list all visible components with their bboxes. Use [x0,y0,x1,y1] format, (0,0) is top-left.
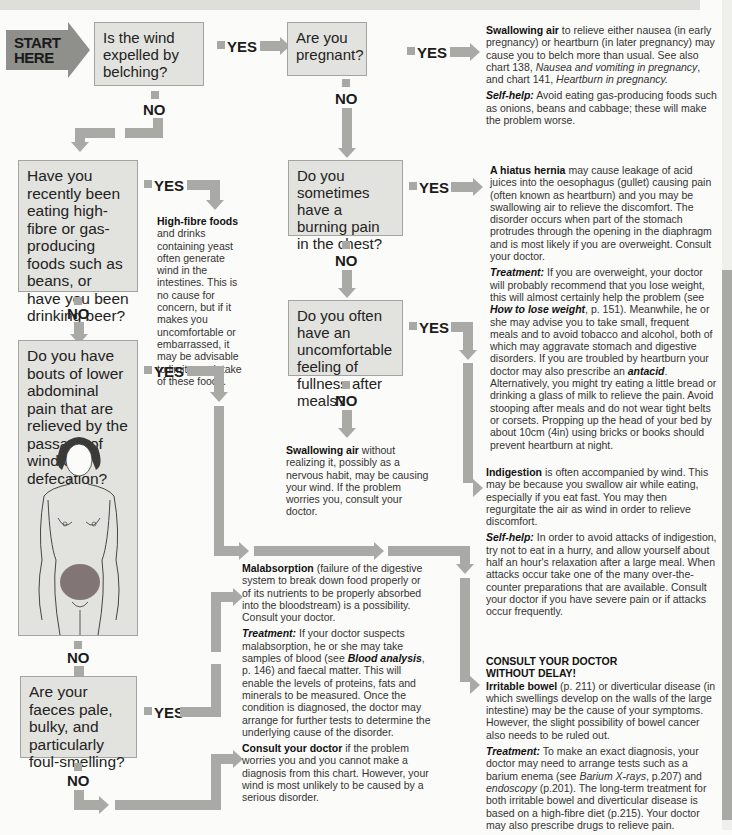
start-label-1: START [14,35,60,50]
connector-square [409,322,417,330]
arrow-down-icon [210,392,228,402]
female-figure-illustration [20,430,138,635]
arrow-shaft [460,578,470,682]
outcome-malabsorption: Malabsorption (failure of the digestive … [242,562,432,742]
arrow-down-icon [459,350,477,360]
arrow-shaft [75,128,85,142]
no-label: NO [143,101,166,118]
arrow-shaft [450,47,470,57]
connector-square [151,91,159,99]
arrow-down-icon [71,142,89,152]
arrow-down-icon [338,148,356,158]
outcome-hiatus-hernia: A hiatus hernia may cause leakage of aci… [490,164,718,455]
top-band [0,0,700,10]
arrow-shaft [211,664,221,717]
arrow-shaft [214,406,224,556]
arrow-shaft [463,322,473,352]
connector-square [144,180,152,188]
connector-square [409,182,417,190]
start-here-arrow: STARTHERE [6,22,90,76]
arrow-shaft [214,546,239,556]
no-label: NO [335,392,358,409]
connector-square [342,381,350,389]
connector-square [217,41,225,49]
question-fullness[interactable]: Do you often have an uncomfortable feeli… [288,300,403,376]
outcome-swallowing-air: Swallowing air without realizing it, pos… [286,444,436,522]
arrow-right-icon [239,542,249,560]
no-label: NO [335,252,358,269]
arrow-right-icon [374,542,384,560]
connector-square [144,366,152,374]
outcome-pregnancy: Swallowing air to relieve either nausea … [486,24,718,130]
question-pregnant[interactable]: Are you pregnant? [287,22,367,76]
connector-square [74,763,82,771]
connector-square [144,707,152,715]
arrow-right-icon [233,588,243,606]
connector-square [342,79,350,87]
yes-label: YES [154,363,184,380]
arrow-down-icon [456,564,474,574]
arrow-shaft [74,800,99,810]
arrow-shaft [342,410,352,430]
arrow-down-icon [338,288,356,298]
question-burning-pain[interactable]: Do you sometimes have a burning pain in … [288,160,403,236]
outcome-urgent: CONSULT YOUR DOCTOR WITHOUT DELAY! Irrit… [486,655,718,835]
arrow-shaft [388,546,468,556]
no-label: NO [335,90,358,107]
urgent-heading-1: CONSULT YOUR DOCTOR [486,655,718,667]
arrow-shaft [260,41,280,51]
arrow-shaft [115,800,220,810]
connector-square [342,241,350,249]
yes-label: YES [419,319,449,336]
arrow-shaft [451,182,473,192]
arrow-shaft [125,128,163,138]
arrow-down-icon [206,200,224,210]
yes-label: YES [154,177,184,194]
connector-square [74,641,82,649]
yes-label: YES [417,44,447,61]
arrow-right-icon [99,796,109,814]
arrow-shaft [211,592,233,602]
yes-label: YES [419,179,449,196]
no-label: NO [67,772,90,789]
arrow-down-icon [338,428,356,438]
question-high-fibre[interactable]: Have you recently been eating high-fibre… [18,160,138,292]
arrow-right-icon [473,479,483,497]
connector-square [407,47,415,55]
arrow-shaft [342,270,352,290]
yes-label: YES [227,38,257,55]
arrow-shaft [210,180,220,202]
question-belching[interactable]: Is the wind expelled by belching? [94,22,204,86]
arrow-shaft [254,546,374,556]
arrow-shaft [342,108,352,150]
arrow-right-icon [470,676,480,694]
start-label-2: HERE [14,50,60,65]
arrow-shaft [214,366,224,394]
arrow-shaft [460,546,470,566]
page-edge-tab [722,0,732,830]
page-edge-tab-dark [722,270,732,820]
urgent-heading-2: WITHOUT DELAY! [486,667,718,679]
question-faeces[interactable]: Are your faeces pale, bulky, and particu… [20,676,137,758]
arrow-right-icon [473,178,483,196]
outcome-indigestion: Indigestion is often accompanied by wind… [486,466,718,622]
arrow-right-icon [470,43,480,61]
arrow-shaft [211,754,233,764]
connector-square [74,297,82,305]
arrow-shaft [463,363,473,483]
outcome-consult-doctor: Consult your doctor if the problem worri… [242,742,432,807]
no-label: NO [67,649,90,666]
no-label: NO [67,305,90,322]
